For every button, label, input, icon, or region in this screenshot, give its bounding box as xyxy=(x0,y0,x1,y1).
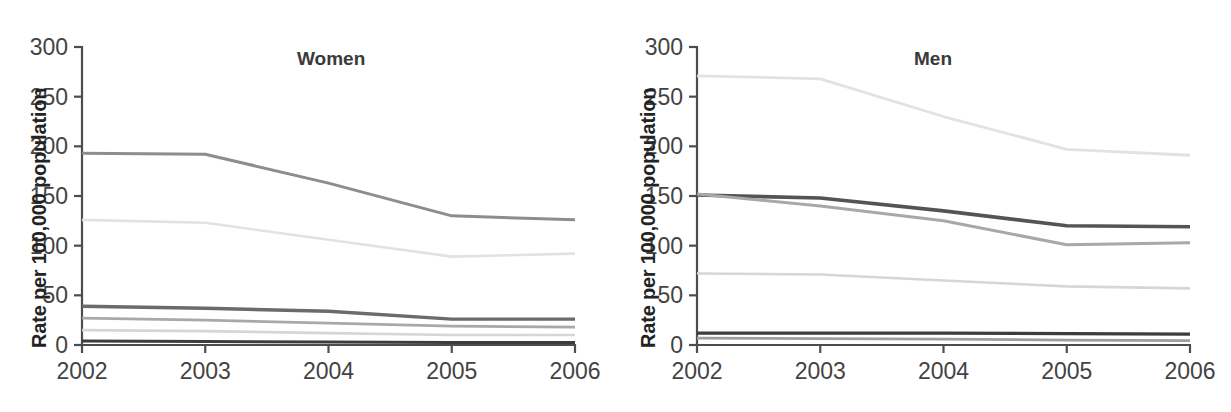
men-line-series-6 xyxy=(697,338,1190,340)
women-line-series-2 xyxy=(82,220,575,257)
men-y-axis-label: Rate per 100,000 population xyxy=(637,88,660,348)
men-x-tick-label: 2005 xyxy=(1041,358,1092,384)
men-line-series-5 xyxy=(697,333,1190,334)
men-line-series-4 xyxy=(697,273,1190,288)
women-line-series-3 xyxy=(82,306,575,319)
men-plot-title: Men xyxy=(914,48,952,70)
figure-two-panel-line-chart: 05010015020025030020022003200420052006 R… xyxy=(0,0,1231,412)
women-x-tick-label: 2002 xyxy=(56,358,107,384)
men-line-series-3 xyxy=(697,194,1190,245)
women-y-axis-label: Rate per 100,000 population xyxy=(28,88,51,348)
men-y-tick-label: 0 xyxy=(670,332,683,358)
men-line-series-1 xyxy=(697,76,1190,155)
women-x-tick-label: 2005 xyxy=(426,358,477,384)
panel-women: 05010015020025030020022003200420052006 R… xyxy=(0,0,615,412)
women-y-tick-label: 0 xyxy=(55,332,68,358)
women-x-tick-label: 2006 xyxy=(549,358,600,384)
men-y-tick-label: 300 xyxy=(645,34,683,60)
men-x-tick-label: 2006 xyxy=(1164,358,1215,384)
women-line-series-1 xyxy=(82,153,575,220)
women-x-tick-label: 2003 xyxy=(180,358,231,384)
women-plot-title: Women xyxy=(297,48,365,70)
women-line-series-6 xyxy=(82,341,575,342)
men-x-tick-label: 2003 xyxy=(795,358,846,384)
men-x-tick-label: 2002 xyxy=(671,358,722,384)
men-y-tick-label: 50 xyxy=(657,282,683,308)
women-line-series-5 xyxy=(82,330,575,335)
women-x-tick-label: 2004 xyxy=(303,358,354,384)
panel-men: 05010015020025030020022003200420052006 R… xyxy=(615,0,1230,412)
women-y-tick-label: 300 xyxy=(30,34,68,60)
men-x-tick-label: 2004 xyxy=(918,358,969,384)
